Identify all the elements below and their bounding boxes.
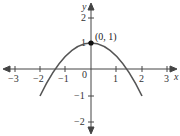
parabola-chart: −3 −2 −1 0 1 2 3 x 2 1 −1 −2 y (0, 1) xyxy=(0,0,180,136)
x-tick-label: 1 xyxy=(113,73,118,84)
x-tick-labels: −3 −2 −1 0 1 2 3 xyxy=(8,69,169,84)
y-tick-label: −2 xyxy=(74,116,85,127)
x-axis xyxy=(3,66,177,72)
x-tick-label: 0 xyxy=(82,69,87,80)
y-axis-label: y xyxy=(81,1,87,12)
x-tick-label: 2 xyxy=(139,73,144,84)
vertex-point xyxy=(88,40,93,45)
y-tick-label: 2 xyxy=(81,12,86,23)
x-tick-label: 3 xyxy=(164,73,169,84)
vertex-label: (0, 1) xyxy=(95,31,117,43)
y-tick-label: −1 xyxy=(74,90,85,101)
x-tick-label: −1 xyxy=(58,73,69,84)
y-tick-label: 1 xyxy=(81,37,86,48)
x-axis-label: x xyxy=(173,71,179,82)
x-tick-label: −3 xyxy=(8,73,19,84)
x-tick-label: −2 xyxy=(33,73,44,84)
